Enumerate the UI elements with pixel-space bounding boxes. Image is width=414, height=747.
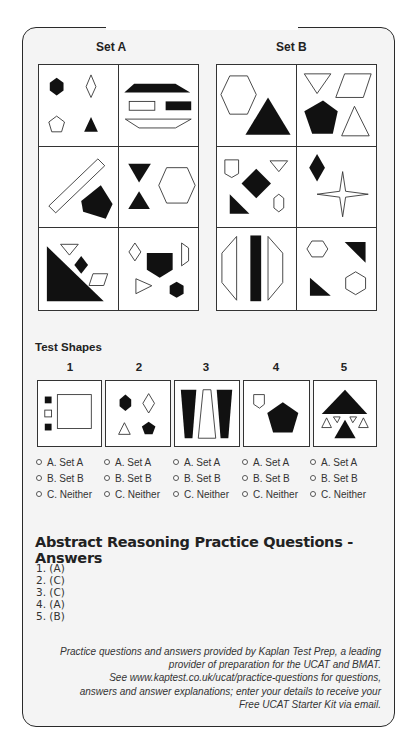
set-a-cell-5	[39, 228, 119, 310]
diamond-shape	[143, 394, 155, 413]
triangle-shape	[322, 418, 332, 428]
option-b[interactable]: B. Set B	[242, 471, 312, 487]
test-shape-1	[37, 380, 102, 447]
test-shapes-title: Test Shapes	[35, 341, 102, 353]
square-shape	[45, 410, 52, 417]
footer-line: See www.kaptest.co.uk/ucat/practice-ques…	[41, 671, 381, 684]
four-point-star-shape	[317, 171, 368, 216]
radio-icon[interactable]	[242, 475, 248, 481]
large-triangle-shape	[322, 390, 368, 414]
option-a[interactable]: A. Set A	[242, 455, 312, 471]
triangle-shape	[61, 245, 79, 256]
radio-icon[interactable]	[173, 491, 179, 497]
pentagon-shape	[254, 395, 265, 409]
radio-icon[interactable]	[310, 475, 316, 481]
pentagon-shape	[49, 116, 65, 132]
option-c[interactable]: C. Neither	[173, 487, 243, 503]
answer-item: 5. (B)	[36, 610, 65, 622]
radio-icon[interactable]	[173, 459, 179, 465]
answer-item: 2. (C)	[36, 574, 65, 586]
radio-icon[interactable]	[36, 459, 42, 465]
half-octagon-right-shape	[268, 237, 283, 301]
hexagon-shape	[221, 76, 256, 114]
option-c[interactable]: C. Neither	[104, 487, 174, 503]
pentagon-shape	[142, 422, 156, 435]
test-number-2: 2	[106, 361, 172, 373]
triangle-shape	[84, 117, 98, 132]
hexagon-shape	[345, 272, 365, 295]
footer-line: Practice questions and answers provided …	[41, 645, 381, 658]
square-shape	[45, 397, 52, 404]
right-triangle-shape	[309, 278, 330, 296]
triangle-shape	[341, 106, 369, 136]
parallelogram-shape	[335, 74, 370, 98]
option-c[interactable]: C. Neither	[36, 487, 106, 503]
bar-shape	[250, 236, 261, 302]
radio-icon[interactable]	[310, 459, 316, 465]
set-a-cell-3	[39, 147, 119, 229]
radio-icon[interactable]	[104, 475, 110, 481]
set-a-cell-4	[119, 147, 199, 229]
rectangle-shape	[129, 101, 155, 110]
radio-icon[interactable]	[310, 491, 316, 497]
trapezoid-shape	[181, 243, 188, 266]
option-c[interactable]: C. Neither	[242, 487, 312, 503]
option-c[interactable]: C. Neither	[310, 487, 380, 503]
trapezoid-shape	[124, 84, 190, 93]
diamond-shape	[128, 243, 140, 261]
set-b-cell-4	[297, 147, 377, 229]
footer-line: Free UCAT Starter Kit via email.	[41, 698, 381, 711]
set-b-cell-3	[217, 147, 297, 229]
radio-icon[interactable]	[242, 459, 248, 465]
footer-line: answers and answer explanations; enter y…	[41, 685, 381, 698]
set-a-title: Set A	[96, 40, 126, 54]
triangle-shape	[119, 423, 131, 435]
option-b[interactable]: B. Set B	[104, 471, 174, 487]
option-b[interactable]: B. Set B	[310, 471, 380, 487]
frame-top-gap	[106, 24, 298, 30]
trapezoid-shape	[217, 390, 233, 438]
set-b-cell-6	[297, 228, 377, 310]
hexagon-shape	[120, 395, 132, 411]
option-b[interactable]: B. Set B	[36, 471, 106, 487]
triangle-shape	[135, 279, 151, 294]
diamond-shape	[242, 168, 271, 197]
hexagon-shape	[158, 167, 194, 202]
radio-icon[interactable]	[104, 491, 110, 497]
set-b-cell-2	[297, 65, 377, 147]
option-a[interactable]: A. Set A	[310, 455, 380, 471]
triangle-shape	[359, 418, 369, 428]
set-b-grid	[216, 64, 377, 311]
option-b[interactable]: B. Set B	[173, 471, 243, 487]
half-octagon-left-shape	[222, 237, 237, 301]
pentagon-shape	[146, 253, 172, 278]
hexagon-shape	[50, 78, 64, 96]
small-triangle-shape	[350, 417, 357, 423]
test-shape-2	[105, 380, 171, 447]
test-number-5: 5	[311, 361, 377, 373]
inverted-trapezoid-shape	[125, 119, 191, 128]
radio-icon[interactable]	[104, 459, 110, 465]
radio-icon[interactable]	[173, 475, 179, 481]
radio-icon[interactable]	[36, 475, 42, 481]
hexagon-shape	[274, 194, 284, 212]
options-question-2: A. Set A B. Set B C. Neither	[104, 455, 174, 503]
test-number-1: 1	[37, 361, 103, 373]
option-a[interactable]: A. Set A	[104, 455, 174, 471]
radio-icon[interactable]	[242, 491, 248, 497]
radio-icon[interactable]	[36, 491, 42, 497]
test-number-3: 3	[173, 361, 239, 373]
small-triangle-shape	[333, 417, 340, 423]
option-a[interactable]: A. Set A	[36, 455, 106, 471]
inverted-triangle-shape	[304, 74, 331, 94]
options-question-3: A. Set A B. Set B C. Neither	[173, 455, 243, 503]
option-a[interactable]: A. Set A	[173, 455, 243, 471]
answers-list: 1. (A) 2. (C) 3. (C) 4. (A) 5. (B)	[36, 562, 65, 622]
trapezoid-shape	[198, 390, 215, 438]
answer-item: 3. (C)	[36, 586, 65, 598]
triangle-shape	[128, 163, 151, 182]
set-a-cell-1	[39, 65, 119, 147]
set-a-cell-2	[119, 65, 199, 147]
right-triangle-shape	[344, 242, 365, 263]
options-question-1: A. Set A B. Set B C. Neither	[36, 455, 106, 503]
